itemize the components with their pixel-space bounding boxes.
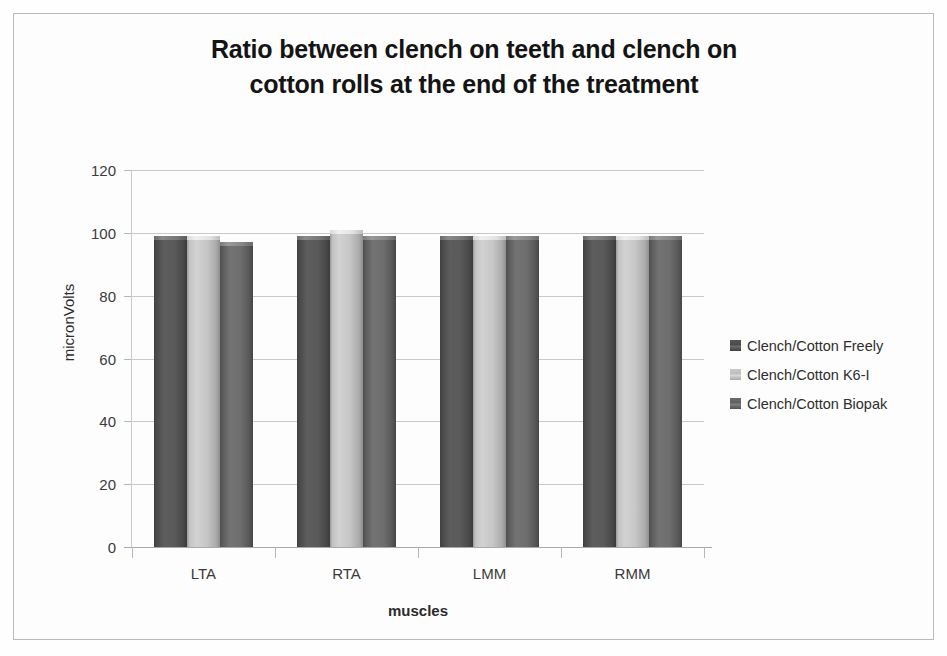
x-separator-3: [561, 547, 562, 558]
chart-frame: Ratio between clench on teeth and clench…: [13, 13, 934, 640]
x-separator-2: [418, 547, 419, 558]
legend-swatch-icon: [730, 398, 741, 409]
bar-rmm-series-1[interactable]: [616, 236, 649, 547]
bar-top-cap: [583, 236, 616, 240]
bar-top-cap: [220, 242, 253, 246]
bar-top-cap: [473, 236, 506, 240]
chart-title-line-1: Ratio between clench on teeth and clench…: [74, 32, 874, 67]
bar-rta-series-2[interactable]: [363, 236, 396, 547]
bar-body: [220, 242, 253, 547]
y-tick-label-40: 40: [70, 413, 116, 430]
legend-label: Clench/Cotton Biopak: [747, 396, 887, 412]
bar-group-rta: [275, 170, 418, 547]
bar-top-cap: [297, 236, 330, 240]
legend-item-1[interactable]: Clench/Cotton K6-I: [730, 360, 945, 389]
y-tick-label-60: 60: [70, 350, 116, 367]
scanned-page: Ratio between clench on teeth and clench…: [0, 0, 947, 656]
bar-body: [330, 230, 363, 547]
bar-group-lmm: [418, 170, 561, 547]
legend: Clench/Cotton FreelyClench/Cotton K6-ICl…: [730, 331, 945, 418]
bar-top-cap: [330, 230, 363, 234]
bar-body: [616, 236, 649, 547]
y-tick-label-120: 120: [70, 162, 116, 179]
y-tick-label-80: 80: [70, 287, 116, 304]
bar-rta-series-0[interactable]: [297, 236, 330, 547]
bar-body: [297, 236, 330, 547]
bar-lmm-series-0[interactable]: [440, 236, 473, 547]
bar-group-rmm: [561, 170, 704, 547]
bar-top-cap: [154, 236, 187, 240]
x-category-label-rmm: RMM: [573, 565, 693, 582]
x-separator-1: [275, 547, 276, 558]
bar-lta-series-0[interactable]: [154, 236, 187, 547]
y-axis-tick-labels: 120100806040200: [70, 14, 116, 656]
x-axis-title: muscles: [132, 602, 704, 619]
bar-top-cap: [616, 236, 649, 240]
legend-label: Clench/Cotton K6-I: [747, 367, 870, 383]
bar-lta-series-2[interactable]: [220, 242, 253, 547]
legend-item-0[interactable]: Clench/Cotton Freely: [730, 331, 945, 360]
chart-title: Ratio between clench on teeth and clench…: [74, 32, 874, 101]
x-separator-0: [132, 547, 133, 558]
x-separator-4: [704, 547, 705, 558]
y-tick-label-100: 100: [70, 224, 116, 241]
bar-lta-series-1[interactable]: [187, 236, 220, 547]
y-tick-label-0: 0: [70, 539, 116, 556]
bar-group-lta: [132, 170, 275, 547]
bar-lmm-series-2[interactable]: [506, 236, 539, 547]
x-category-label-rta: RTA: [287, 565, 407, 582]
x-category-label-lmm: LMM: [430, 565, 550, 582]
bar-body: [506, 236, 539, 547]
legend-item-2[interactable]: Clench/Cotton Biopak: [730, 389, 945, 418]
legend-label: Clench/Cotton Freely: [747, 338, 883, 354]
bar-rmm-series-0[interactable]: [583, 236, 616, 547]
bar-top-cap: [363, 236, 396, 240]
legend-swatch-icon: [730, 340, 741, 351]
y-tick-label-20: 20: [70, 476, 116, 493]
x-category-label-lta: LTA: [144, 565, 264, 582]
bar-top-cap: [440, 236, 473, 240]
bar-top-cap: [187, 236, 220, 240]
legend-swatch-icon: [730, 369, 741, 380]
bar-body: [583, 236, 616, 547]
chart-title-line-2: cotton rolls at the end of the treatment: [74, 67, 874, 102]
plot-area: [132, 170, 704, 547]
bar-top-cap: [506, 236, 539, 240]
bar-body: [649, 236, 682, 547]
bar-rmm-series-2[interactable]: [649, 236, 682, 547]
bar-body: [187, 236, 220, 547]
bar-body: [154, 236, 187, 547]
bar-body: [440, 236, 473, 547]
bar-body: [363, 236, 396, 547]
bar-body: [473, 236, 506, 547]
bar-rta-series-1[interactable]: [330, 230, 363, 547]
bar-top-cap: [649, 236, 682, 240]
bar-lmm-series-1[interactable]: [473, 236, 506, 547]
